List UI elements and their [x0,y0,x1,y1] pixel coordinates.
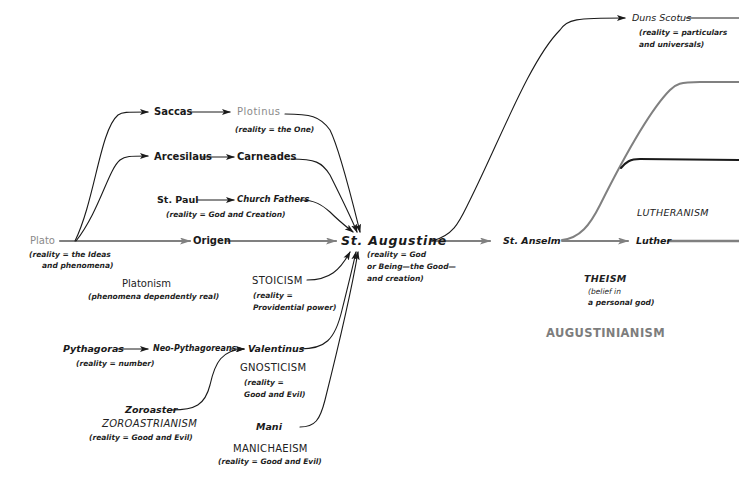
plato-note-2: and phenomena) [42,260,113,271]
node-st-paul: St. Paul [157,195,198,205]
school-lutheranism: LUTHERANISM [637,207,709,218]
plato-note-1: (reality = the Ideas [29,249,111,260]
theism-note-1: (belief in [588,286,621,297]
pythagoras-note: (reality = number) [76,358,154,369]
church-fathers-note: (reality = God and Creation) [166,209,286,220]
node-origen: Origen [193,236,231,246]
node-mani: Mani [256,422,282,432]
theism-note-2: a personal god) [588,297,654,308]
node-duns-scotus: Duns Scotus [632,13,691,23]
duns-scotus-note-2: and universals) [639,39,704,50]
zoroastrianism-note: (reality = Good and Evil) [89,432,193,443]
node-st-augustine: St. Augustine [341,235,447,248]
node-saccas: Saccas [154,107,193,117]
node-luther: Luther [636,236,671,246]
node-zoroastrianism: ZOROASTRIANISM [102,418,197,429]
node-pythagoras: Pythagoras [63,344,124,354]
node-gnosticism: GNOSTICISM [240,362,306,373]
st-augustine-note-2: or Being—the Good— [367,261,456,272]
node-zoroaster: Zoroaster [125,405,177,415]
school-platonism: Platonism [122,278,171,289]
stoicism-note-1: (reality = [253,290,293,301]
node-plato: Plato [30,236,55,246]
node-neo-pythagoreans: Neo-Pythagoreans [153,345,236,353]
gnosticism-note-1: (reality = [244,377,284,388]
duns-scotus-note-1: (reality = particulars [639,27,727,38]
stoicism-note-2: Providential power) [253,302,336,313]
node-plotinus: Plotinus [237,107,281,117]
gnosticism-note-2: Good and Evil) [244,389,305,400]
st-augustine-note-1: (reality = God [367,249,426,260]
st-augustine-note-3: and creation) [367,273,424,284]
platonism-note: (phenomena dependently real) [88,291,219,302]
manichaeism-note: (reality = Good and Evil) [218,456,322,467]
node-stoicism: STOICISM [252,275,303,286]
node-valentinus: Valentinus [248,344,304,354]
node-manichaeism: MANICHAEISM [233,443,308,454]
node-arcesilaus: Arcesilaus [154,152,212,162]
node-church-fathers: Church Fathers [237,195,309,204]
school-theism: THEISM [584,273,627,284]
plotinus-note: (reality = the One) [235,124,314,135]
school-augustinianism: AUGUSTINIANISM [546,326,665,340]
node-carneades: Carneades [237,152,297,162]
node-st-anselm: St. Anselm [503,236,561,246]
